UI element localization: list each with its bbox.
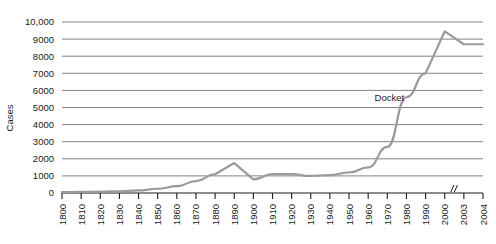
y-axis-tick-label: 5000 xyxy=(33,102,54,113)
x-axis-tick-label: 1820 xyxy=(95,204,106,225)
chart-figure: 010002000300040005000600070008000900010,… xyxy=(0,0,496,244)
x-axis-tick-label: 1860 xyxy=(171,204,182,225)
x-axis-tick-labels: 1800181018201830184018501860187018801890… xyxy=(57,204,489,225)
x-axis-tick-label: 1850 xyxy=(152,204,163,225)
y-axis-tick-label: 1000 xyxy=(33,170,54,181)
y-axis-title: Cases xyxy=(4,104,15,131)
y-axis-tick-label: 10,000 xyxy=(25,16,54,27)
x-axis-tick-label: 1950 xyxy=(344,204,355,225)
y-axis-tick-label: 9000 xyxy=(33,34,54,45)
x-axis-tick-label: 1870 xyxy=(190,204,201,225)
x-axis-tick-label: 1990 xyxy=(420,204,431,225)
x-axis-tick-label: 1830 xyxy=(114,204,125,225)
y-axis-tick-label: 8000 xyxy=(33,51,54,62)
y-axis-tick-label: 4000 xyxy=(33,119,54,130)
annotation-group: Docket xyxy=(375,92,405,103)
x-axis-tick-label: 1840 xyxy=(133,204,144,225)
x-axis-tick-label: 1800 xyxy=(57,204,68,225)
axis-break-marker xyxy=(451,185,458,192)
gridline-group xyxy=(62,22,483,176)
x-axis-tick-marks xyxy=(62,193,483,199)
y-axis-tick-label: 6000 xyxy=(33,85,54,96)
y-axis-tick-label: 7000 xyxy=(33,68,54,79)
line-chart: 010002000300040005000600070008000900010,… xyxy=(0,0,496,244)
series-line-docket xyxy=(62,31,483,192)
x-axis-tick-label: 2000 xyxy=(439,204,450,225)
x-axis-tick-label: 1880 xyxy=(210,204,221,225)
x-axis-tick-label: 1930 xyxy=(305,204,316,225)
x-axis-tick-label: 2003 xyxy=(458,204,469,225)
axis-break-slash xyxy=(454,185,457,192)
x-axis-tick-label: 1920 xyxy=(286,204,297,225)
x-axis-tick-label: 1940 xyxy=(324,204,335,225)
axis-break-slash xyxy=(451,185,454,192)
x-axis-tick-label: 1910 xyxy=(267,204,278,225)
x-axis-tick-label: 1810 xyxy=(76,204,87,225)
x-axis-tick-label: 2004 xyxy=(478,204,489,225)
series-annotation-label: Docket xyxy=(375,92,405,103)
x-axis-tick-label: 1960 xyxy=(363,204,374,225)
x-axis-tick-label: 1900 xyxy=(248,204,259,225)
x-axis-tick-label: 1890 xyxy=(229,204,240,225)
y-axis-tick-label: 0 xyxy=(49,187,54,198)
y-axis-tick-labels: 010002000300040005000600070008000900010,… xyxy=(25,16,54,198)
x-axis-tick-label: 1970 xyxy=(382,204,393,225)
y-axis-tick-label: 2000 xyxy=(33,153,54,164)
y-axis-tick-label: 3000 xyxy=(33,136,54,147)
x-axis-tick-label: 1980 xyxy=(401,204,412,225)
